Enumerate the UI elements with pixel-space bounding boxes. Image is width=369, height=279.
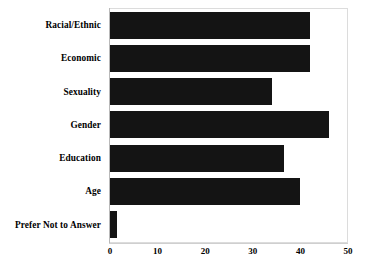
bar-row: [110, 142, 348, 175]
bar-row: [110, 109, 348, 142]
bar-sexuality: [110, 78, 272, 105]
x-axis-tick-labels: 01020304050: [0, 246, 369, 262]
category-label-age: Age: [85, 175, 101, 208]
category-label-row: Sexuality: [0, 76, 105, 109]
bar-row: [110, 76, 348, 109]
x-axis-line: [109, 243, 348, 244]
bar-prefer-not-to-answer: [110, 211, 117, 238]
x-tick-label-40: 40: [296, 246, 305, 256]
category-label-education: Education: [59, 142, 101, 175]
bar-chart: Racial/Ethnic Economic Sexuality Gender …: [0, 0, 369, 279]
category-label-row: Education: [0, 142, 105, 175]
x-tick-label-50: 50: [344, 246, 353, 256]
bar-gender: [110, 111, 329, 138]
category-label-sexuality: Sexuality: [63, 76, 101, 109]
category-label-prefer-not-to-answer: Prefer Not to Answer: [15, 209, 101, 242]
category-label-row: Racial/Ethnic: [0, 9, 105, 42]
bar-row: [110, 175, 348, 208]
x-tick-label-10: 10: [153, 246, 162, 256]
x-tick-label-0: 0: [108, 246, 113, 256]
bar-row: [110, 209, 348, 242]
category-label-gender: Gender: [70, 109, 101, 142]
bar-age: [110, 178, 300, 205]
bars-area: [110, 9, 348, 242]
bar-racial-ethnic: [110, 12, 310, 39]
x-tick-label-20: 20: [201, 246, 210, 256]
category-label-racial-ethnic: Racial/Ethnic: [45, 9, 101, 42]
category-label-row: Economic: [0, 42, 105, 75]
category-label-row: Prefer Not to Answer: [0, 209, 105, 242]
bar-education: [110, 145, 284, 172]
category-label-row: Gender: [0, 109, 105, 142]
bar-row: [110, 9, 348, 42]
x-tick-label-30: 30: [248, 246, 257, 256]
bar-economic: [110, 45, 310, 72]
category-label-row: Age: [0, 175, 105, 208]
category-axis-labels: Racial/Ethnic Economic Sexuality Gender …: [0, 9, 105, 242]
category-label-economic: Economic: [61, 42, 101, 75]
bar-row: [110, 42, 348, 75]
